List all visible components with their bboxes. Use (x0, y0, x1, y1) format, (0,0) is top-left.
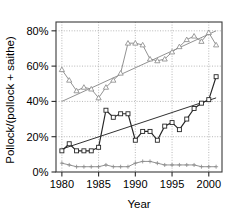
triangle-marker (191, 34, 196, 39)
trend-lines (62, 31, 216, 149)
y-axis-title: Pollock/(pollock + saithe) (4, 36, 16, 164)
x-tick-label: 1995 (160, 178, 184, 190)
triangle-marker (147, 56, 152, 61)
y-tick-label: 80% (26, 25, 48, 37)
square-marker (141, 129, 145, 133)
square-marker (170, 121, 174, 125)
square-marker (89, 149, 93, 153)
square-marker (133, 138, 137, 142)
square-marker (214, 75, 218, 79)
y-tick-label: 0% (33, 166, 49, 178)
square-marker (119, 112, 123, 116)
square-marker (177, 128, 181, 132)
x-tick-label: 1985 (86, 178, 110, 190)
triangle-marker (214, 42, 219, 47)
square-marker (155, 138, 159, 142)
triangle-marker (59, 67, 64, 72)
square-marker (67, 142, 71, 146)
square-marker (126, 112, 130, 116)
square-trend (62, 98, 216, 149)
square-marker (199, 101, 203, 105)
square-marker (111, 115, 115, 119)
y-tick-label: 60% (26, 60, 48, 72)
x-tick-label: 2000 (197, 178, 221, 190)
chart-plot-area: 19801985199019952000 0%20%40%60%80% Year… (0, 0, 233, 215)
square-marker (97, 145, 101, 149)
triangle-marker (81, 85, 86, 90)
x-tick-labels: 19801985199019952000 (50, 178, 221, 190)
plus-series (60, 159, 218, 168)
x-axis-title: Year (127, 198, 150, 210)
square-marker (163, 124, 167, 128)
square-marker (60, 149, 64, 153)
y-tick-label: 20% (26, 131, 48, 143)
x-tick-label: 1990 (123, 178, 147, 190)
square-marker (192, 106, 196, 110)
chart-figure: 19801985199019952000 0%20%40%60%80% Year… (0, 0, 233, 215)
plus-series-line (62, 161, 216, 166)
square-marker (82, 149, 86, 153)
triangle-marker (118, 71, 123, 76)
y-gridlines (56, 31, 222, 137)
y-tick-labels: 0%20%40%60%80% (26, 25, 48, 178)
x-tick-label: 1980 (50, 178, 74, 190)
axis-ticks (52, 31, 209, 177)
data-series (59, 30, 218, 169)
y-tick-label: 40% (26, 95, 48, 107)
square-marker (185, 117, 189, 121)
triangle-marker (184, 37, 189, 42)
square-marker (207, 98, 211, 102)
square-marker (104, 108, 108, 112)
square-marker (75, 149, 79, 153)
square-marker (148, 129, 152, 133)
